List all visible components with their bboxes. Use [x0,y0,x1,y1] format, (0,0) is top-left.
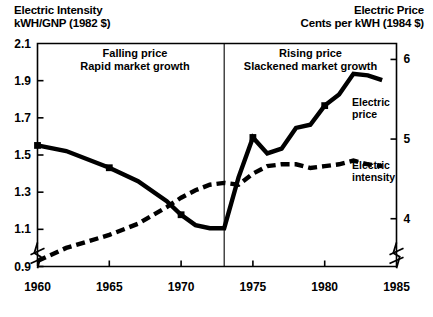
data-point-marker [106,164,113,171]
x-tick-1985: 1985 [367,280,427,294]
y-left-tick-1-9: 1.9 [0,74,31,88]
chart-figure: Electric Intensity kWH/GNP (1982 $) Elec… [0,0,433,317]
data-point-marker [321,102,328,109]
x-tick-1965: 1965 [79,280,139,294]
plot-area [0,0,433,317]
data-point-marker [250,134,257,141]
y-left-tick-2-1: 2.1 [0,37,31,51]
series-line-electric-price [38,74,383,229]
x-tick-1975: 1975 [223,280,283,294]
y-left-tick-1-5: 1.5 [0,148,31,162]
data-point-marker [178,211,185,218]
x-tick-1960: 1960 [8,280,68,294]
axis-frame [38,44,397,267]
data-point-marker [34,142,41,149]
data-series [34,74,382,261]
axis-break-symbols [31,243,404,269]
y-left-tick-0-9: 0.9 [0,260,31,274]
y-right-tick-5: 5 [404,132,411,146]
y-right-tick-6: 6 [404,52,411,66]
x-tick-1980: 1980 [295,280,355,294]
y-left-tick-1-1: 1.1 [0,222,31,236]
series-line-electric-intensity [38,161,383,261]
y-right-tick-4: 4 [404,212,411,226]
x-tick-1970: 1970 [151,280,211,294]
y-left-tick-1-7: 1.7 [0,111,31,125]
y-left-tick-1-3: 1.3 [0,185,31,199]
